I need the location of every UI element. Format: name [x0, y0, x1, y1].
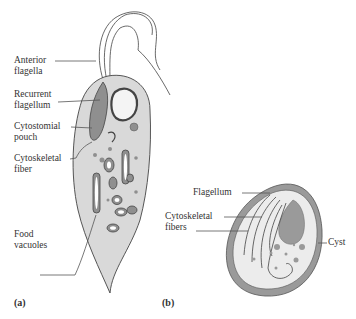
label-line: Cytoskeletal: [14, 153, 62, 164]
label-recurrent-flagellum: Recurrent flagellum: [14, 89, 51, 111]
label-cyst: Cyst: [328, 237, 345, 248]
label-line: Anterior: [14, 55, 46, 66]
nucleus: [111, 89, 137, 120]
label-line: pouch: [14, 132, 60, 143]
label-line: Recurrent: [14, 89, 51, 100]
label-anterior-flagella: Anterior flagella: [14, 55, 46, 77]
label-food-vacuoles: Food vacuoles: [14, 229, 47, 251]
label-line: Cytoskeletal: [165, 211, 213, 222]
label-cytoskeletal-fiber: Cytoskeletal fiber: [14, 153, 62, 175]
label-line: fibers: [165, 222, 213, 233]
label-cytostomial-pouch: Cytostomial pouch: [14, 121, 60, 143]
label-line: flagellum: [14, 100, 51, 111]
panel-label-b: (b): [162, 297, 174, 308]
label-line: Food: [14, 229, 47, 240]
label-cytoskeletal-fibers: Cytoskeletal fibers: [165, 211, 213, 233]
label-line: fiber: [14, 164, 62, 175]
label-line: vacuoles: [14, 240, 47, 251]
label-flagellum: Flagellum: [193, 187, 232, 198]
label-line: Cytostomial: [14, 121, 60, 132]
panel-label-a: (a): [14, 297, 26, 308]
label-line: flagella: [14, 66, 46, 77]
